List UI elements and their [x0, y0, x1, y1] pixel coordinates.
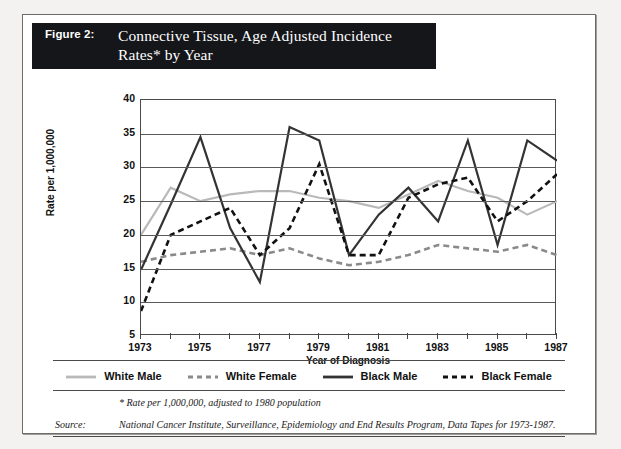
y-tick-20: 20 — [105, 227, 135, 239]
legend-item-black-female[interactable]: Black Female — [443, 370, 551, 382]
x-tick-mark-1983 — [437, 333, 438, 339]
x-tick-1983: 1983 — [417, 341, 457, 353]
y-tick-35: 35 — [105, 126, 135, 138]
x-tick-1985: 1985 — [477, 341, 517, 353]
legend-swatch-icon — [443, 371, 473, 382]
legend-item-black-male[interactable]: Black Male — [323, 370, 418, 382]
figure-title-text: Connective Tissue, Age Adjusted Incidenc… — [118, 26, 428, 64]
footnote-rate-note: * Rate per 1,000,000, adjusted to 1980 p… — [119, 397, 539, 408]
gridline-20 — [141, 235, 555, 236]
legend-label: Black Male — [361, 370, 418, 382]
x-tick-1977: 1977 — [239, 341, 279, 353]
source-label: Source: — [55, 419, 86, 430]
gridline-15 — [141, 269, 555, 270]
footer-rule — [53, 436, 565, 437]
source-text: National Cancer Institute, Surveillance,… — [119, 419, 589, 430]
gridline-35 — [141, 134, 555, 135]
x-tick-mark-1982 — [407, 333, 408, 339]
figure-title-bar: Figure 2: Connective Tissue, Age Adjuste… — [32, 23, 436, 69]
x-tick-mark-1979 — [318, 333, 319, 339]
legend-swatch-icon — [323, 371, 353, 382]
x-axis-tick-labels: 19731975197719791981198319851987 — [140, 339, 556, 355]
plot-area — [140, 99, 556, 335]
figure-card: Figure 2: Connective Tissue, Age Adjuste… — [22, 14, 596, 434]
legend-label: White Female — [226, 370, 297, 382]
chart-lines-svg — [141, 100, 557, 336]
legend-label: Black Female — [481, 370, 551, 382]
legend-item-white-female[interactable]: White Female — [188, 370, 297, 382]
y-axis-tick-labels: 510152025303540 — [101, 99, 135, 335]
legend-swatch-icon — [188, 371, 218, 382]
legend-label: White Male — [104, 370, 161, 382]
y-tick-30: 30 — [105, 159, 135, 171]
x-tick-mark-1987 — [556, 333, 557, 339]
chart-legend: White MaleWhite FemaleBlack MaleBlack Fe… — [23, 364, 595, 388]
y-tick-5: 5 — [105, 328, 135, 340]
y-axis-title: Rate per 1,000,000 — [45, 98, 56, 248]
x-tick-mark-1973 — [140, 333, 141, 339]
gridline-30 — [141, 167, 555, 168]
x-tick-mark-1986 — [526, 333, 527, 339]
y-tick-40: 40 — [105, 92, 135, 104]
legend-item-white-male[interactable]: White Male — [66, 370, 161, 382]
x-tick-mark-1975 — [199, 333, 200, 339]
series-line-white-male — [141, 181, 557, 235]
figure-number-label: Figure 2: — [45, 28, 94, 40]
x-tick-1981: 1981 — [358, 341, 398, 353]
x-tick-mark-1977 — [259, 333, 260, 339]
y-tick-10: 10 — [105, 294, 135, 306]
x-tick-mark-1985 — [497, 333, 498, 339]
x-tick-1987: 1987 — [536, 341, 576, 353]
x-tick-mark-1980 — [348, 333, 349, 339]
y-tick-25: 25 — [105, 193, 135, 205]
chart-region: Rate per 1,000,000 510152025303540 19731… — [23, 71, 595, 361]
legend-swatch-icon — [66, 371, 96, 382]
x-tick-mark-1978 — [289, 333, 290, 339]
x-tick-mark-1976 — [229, 333, 230, 339]
gridline-25 — [141, 201, 555, 202]
legend-top-rule — [53, 360, 565, 361]
x-tick-1973: 1973 — [120, 341, 160, 353]
x-tick-1975: 1975 — [179, 341, 219, 353]
series-line-black-male — [141, 127, 557, 282]
page-background: Figure 2: Connective Tissue, Age Adjuste… — [0, 0, 621, 449]
x-tick-mark-1981 — [378, 333, 379, 339]
legend-bottom-rule — [53, 390, 565, 391]
gridline-10 — [141, 302, 555, 303]
x-tick-1979: 1979 — [298, 341, 338, 353]
x-tick-mark-1974 — [170, 333, 171, 339]
y-tick-15: 15 — [105, 261, 135, 273]
x-tick-mark-1984 — [467, 333, 468, 339]
